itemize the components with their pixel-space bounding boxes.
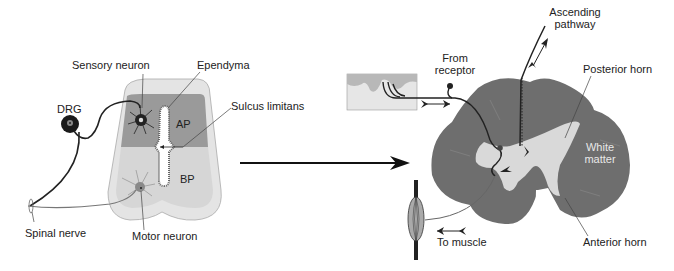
diagram-canvas [0,0,674,271]
label-alar-plate: AP [176,118,191,130]
neural-tube [28,72,231,230]
muscle-icon [408,180,424,260]
label-sulcus-limitans: Sulcus limitans [231,100,304,112]
transition-arrow [240,156,410,170]
label-white-matter: White matter [580,141,620,165]
label-drg: DRG [57,103,81,115]
label-from-receptor: From receptor [430,52,480,76]
label-motor-neuron: Motor neuron [132,230,197,242]
label-to-muscle: To muscle [437,236,487,248]
label-posterior-horn: Posterior horn [583,63,652,75]
drg-ganglion-icon [61,115,79,133]
label-basal-plate: BP [180,173,195,185]
label-ependyma: Ependyma [197,59,250,71]
receptor-icon [447,83,453,89]
label-sensory-neuron: Sensory neuron [72,59,150,71]
label-ascending-pathway: Ascending pathway [545,6,605,30]
label-anterior-horn: Anterior horn [583,236,647,248]
label-spinal-nerve: Spinal nerve [25,227,86,239]
